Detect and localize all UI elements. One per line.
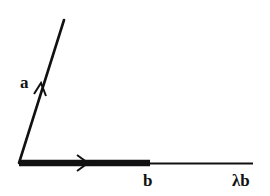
label-a: a xyxy=(20,74,29,91)
label-b: b xyxy=(143,172,152,189)
diagram-svg xyxy=(0,0,270,196)
label-lambda-b: λb xyxy=(232,172,250,189)
vector-diagram: a b λb xyxy=(0,0,270,196)
